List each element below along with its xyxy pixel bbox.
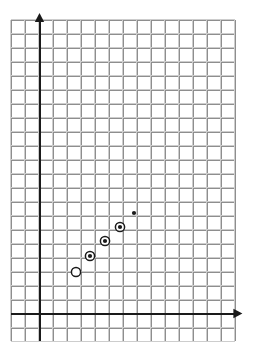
x-axis-arrowhead <box>233 309 242 318</box>
small-dot-marker[interactable] <box>132 211 136 215</box>
graph-canvas <box>0 0 253 356</box>
filled-dot-marker[interactable] <box>88 254 92 258</box>
grid-layer <box>11 20 236 342</box>
coordinate-plane <box>0 0 253 356</box>
open-circle-marker[interactable] <box>71 267 80 276</box>
data-point[interactable] <box>100 236 109 245</box>
filled-dot-marker[interactable] <box>118 225 122 229</box>
data-point[interactable] <box>71 267 80 276</box>
data-point[interactable] <box>85 251 94 260</box>
data-point[interactable] <box>115 222 124 231</box>
filled-dot-marker[interactable] <box>103 239 107 243</box>
y-axis-arrowhead <box>35 13 44 22</box>
data-point[interactable] <box>132 211 136 215</box>
